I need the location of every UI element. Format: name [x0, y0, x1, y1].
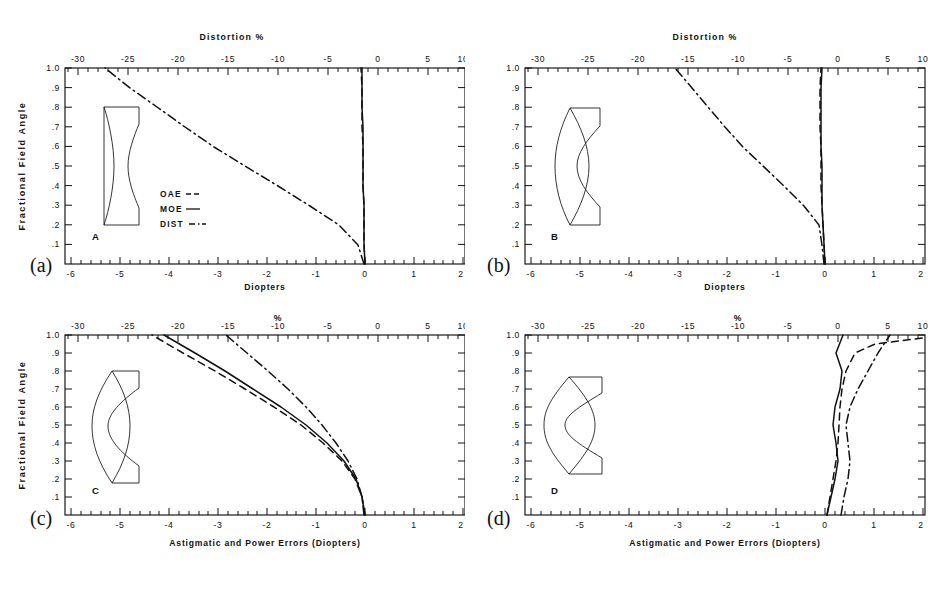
panel-c-id-label: C	[92, 485, 99, 496]
svg-text:5: 5	[885, 54, 890, 64]
panel-c-curve-dist	[226, 335, 364, 515]
svg-text:-6: -6	[527, 520, 536, 530]
svg-text:.5: .5	[512, 420, 520, 430]
svg-text:.5: .5	[52, 420, 60, 430]
panel-d-curve-moe	[827, 335, 843, 515]
panel-a-top-ticks	[68, 68, 458, 75]
panel-b: Distortion % -30 -25 -20 -15 -10 -5 0 5 …	[465, 0, 930, 300]
svg-text:0: 0	[375, 321, 380, 331]
panel-a-plot: Distortion % -30 -25 -20 -15 -10 -5 0 5 …	[0, 0, 465, 300]
panel-a-frame	[65, 68, 465, 264]
svg-text:-5: -5	[784, 321, 793, 331]
svg-text:2: 2	[458, 520, 463, 530]
svg-text:.4: .4	[52, 181, 60, 191]
svg-text:-3: -3	[214, 269, 223, 279]
panel-c-lens-inset	[92, 371, 139, 483]
svg-text:1: 1	[411, 520, 416, 530]
panel-c-y-axis-title: Fractional Field Angle	[17, 361, 27, 490]
svg-text:.1: .1	[512, 239, 520, 249]
panel-b-top-axis-title: Distortion %	[672, 32, 737, 42]
panel-d-y-tick-labels: 1.0 .9 .8 .7 .6 .5 .4 .3 .2 .1	[506, 330, 520, 502]
svg-text:.2: .2	[52, 474, 60, 484]
panel-d-bottom-tick-labels: -6 -5 -4 -3 -2 -1 0 1 2	[527, 520, 924, 530]
svg-text:2: 2	[918, 520, 923, 530]
svg-text:-6: -6	[67, 520, 76, 530]
svg-text:.1: .1	[52, 239, 60, 249]
svg-text:.3: .3	[52, 456, 60, 466]
svg-text:0: 0	[375, 54, 380, 64]
svg-text:5: 5	[425, 321, 430, 331]
panel-d-y-ticks	[525, 335, 925, 497]
svg-text:.7: .7	[52, 384, 60, 394]
panel-d-id-label: D	[551, 485, 558, 496]
svg-text:.9: .9	[52, 83, 60, 93]
svg-text:10: 10	[918, 321, 929, 331]
svg-text:-4: -4	[625, 520, 634, 530]
svg-text:.9: .9	[512, 348, 520, 358]
svg-text:1: 1	[871, 520, 876, 530]
svg-text:-2: -2	[263, 269, 272, 279]
panel-b-figure-letter: (b)	[487, 254, 510, 277]
panel-b-top-ticks	[528, 68, 918, 75]
svg-text:1.0: 1.0	[506, 63, 520, 73]
panel-b-bottom-axis-title: Diopters	[704, 282, 745, 292]
svg-text:-3: -3	[674, 269, 683, 279]
svg-text:.6: .6	[512, 402, 520, 412]
panel-d-top-ticks	[528, 335, 918, 342]
svg-text:.6: .6	[52, 402, 60, 412]
svg-text:.3: .3	[512, 200, 520, 210]
svg-text:-3: -3	[674, 520, 683, 530]
svg-text:.1: .1	[52, 492, 60, 502]
figure-canvas: Distortion % -30 -25 -20 -15 -10 -5 0 5 …	[0, 0, 930, 593]
legend-item-dist: DIST	[160, 219, 184, 229]
svg-text:-6: -6	[527, 269, 536, 279]
svg-text:.2: .2	[512, 220, 520, 230]
svg-text:.8: .8	[52, 102, 60, 112]
panel-c-bottom-axis-title: Astigmatic and Power Errors (Diopters)	[169, 538, 360, 548]
panel-b-bottom-ticks	[531, 257, 923, 264]
svg-text:1: 1	[411, 269, 416, 279]
svg-text:5: 5	[885, 321, 890, 331]
svg-text:-10: -10	[271, 321, 285, 331]
svg-text:.5: .5	[52, 161, 60, 171]
svg-text:.4: .4	[52, 438, 60, 448]
panel-a-bottom-axis-title: Diopters	[244, 282, 285, 292]
svg-text:-25: -25	[121, 54, 135, 64]
svg-text:-2: -2	[263, 520, 272, 530]
panel-b-plot: Distortion % -30 -25 -20 -15 -10 -5 0 5 …	[465, 0, 930, 300]
panel-a-top-tick-labels: -30 -25 -20 -15 -10 -5 0 5 10	[71, 54, 465, 64]
panel-a-id-label: A	[92, 231, 99, 242]
panel-d-curve-dist	[841, 335, 890, 515]
svg-text:2: 2	[918, 269, 923, 279]
legend-item-moe: MOE	[160, 204, 183, 214]
svg-text:.5: .5	[512, 161, 520, 171]
panel-b-curve-dist	[675, 68, 824, 264]
svg-text:-5: -5	[324, 54, 333, 64]
svg-text:-20: -20	[171, 54, 185, 64]
svg-text:-1: -1	[772, 520, 781, 530]
svg-text:10: 10	[918, 54, 929, 64]
svg-text:-10: -10	[271, 54, 285, 64]
svg-text:-30: -30	[531, 321, 545, 331]
panel-c-bottom-ticks	[71, 508, 463, 515]
svg-text:-5: -5	[324, 321, 333, 331]
legend-item-oae: OAE	[160, 189, 182, 199]
panel-c-top-ticks	[68, 335, 458, 342]
svg-text:.7: .7	[512, 122, 520, 132]
panel-d-bottom-ticks	[531, 508, 923, 515]
panel-a-lens-inset	[104, 107, 139, 225]
svg-text:-10: -10	[731, 54, 745, 64]
svg-text:-25: -25	[581, 321, 595, 331]
panel-a-curve-moe	[362, 68, 365, 264]
svg-text:-5: -5	[116, 269, 125, 279]
panel-b-bottom-tick-labels: -6 -5 -4 -3 -2 -1 0 1 2	[527, 269, 924, 279]
panel-c-y-tick-labels: 1.0 .9 .8 .7 .6 .5 .4 .3 .2 .1	[46, 330, 60, 502]
svg-text:.7: .7	[52, 122, 60, 132]
panel-a-y-ticks	[65, 68, 465, 244]
panel-b-y-tick-labels: 1.0 .9 .8 .7 .6 .5 .4 .3 .2 .1	[506, 63, 520, 249]
svg-text:0: 0	[362, 520, 367, 530]
svg-text:10: 10	[458, 54, 465, 64]
svg-text:-1: -1	[312, 520, 321, 530]
svg-text:0: 0	[362, 269, 367, 279]
svg-text:.6: .6	[52, 141, 60, 151]
